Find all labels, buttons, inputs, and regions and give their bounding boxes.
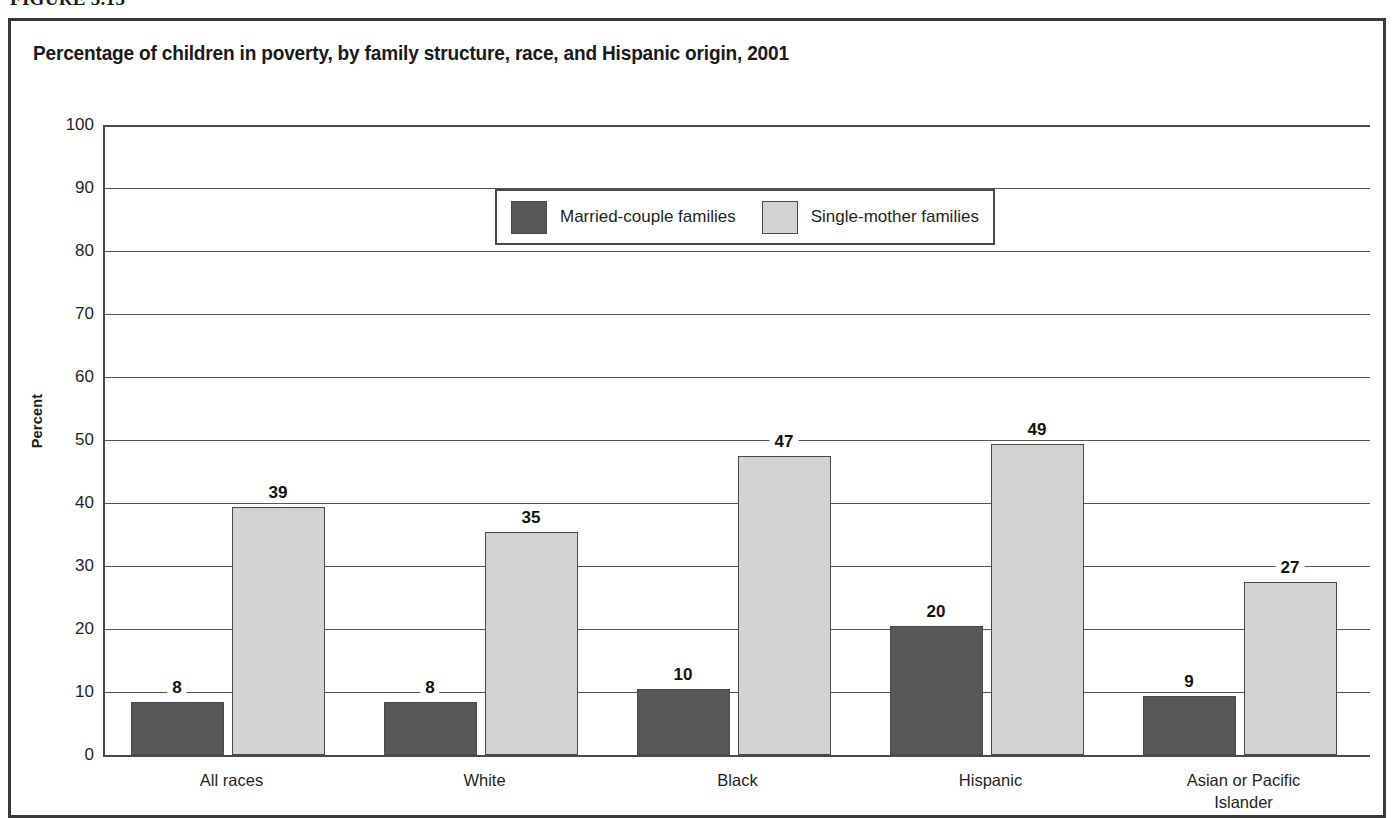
bar-single-white[interactable] [485, 532, 578, 755]
legend-label-married: Married-couple families [560, 207, 736, 227]
y-axis-tick-label: 70 [75, 304, 94, 324]
gridline [105, 377, 1370, 378]
chart-plot-wrapper: Percent 0102030405060708090100839All rac… [11, 21, 1383, 815]
y-axis-tick-label: 10 [75, 682, 94, 702]
y-axis-tick-label: 100 [66, 115, 94, 135]
bar-value-label: 49 [1023, 420, 1052, 440]
y-axis-tick-label: 30 [75, 556, 94, 576]
legend-swatch-married-icon [511, 201, 547, 234]
gridline [105, 125, 1370, 127]
y-axis-tick-label: 40 [75, 493, 94, 513]
bar-value-label: 8 [420, 678, 439, 698]
legend-swatch-single-icon [762, 201, 798, 234]
bar-married-black[interactable] [637, 689, 730, 755]
figure-number-label: FIGURE 3.13 [10, 0, 125, 10]
bar-value-label: 8 [167, 678, 186, 698]
bar-value-label: 9 [1179, 672, 1198, 692]
figure-frame: Percentage of children in poverty, by fa… [8, 18, 1386, 818]
bar-married-hispanic[interactable] [890, 626, 983, 755]
x-axis-category-label: All races [200, 769, 263, 791]
y-axis-tick-label: 20 [75, 619, 94, 639]
y-axis-tick-label: 60 [75, 367, 94, 387]
bar-value-label: 10 [669, 665, 698, 685]
x-axis-category-label: Asian or PacificIslander [1187, 769, 1301, 814]
bar-married-asian-or-pacific-islander[interactable] [1143, 696, 1236, 755]
bar-value-label: 20 [922, 602, 951, 622]
gridline [105, 251, 1370, 252]
bar-single-all-races[interactable] [232, 507, 325, 755]
y-axis-tick-label: 90 [75, 178, 94, 198]
y-axis-tick-label: 0 [85, 745, 94, 765]
bar-single-asian-or-pacific-islander[interactable] [1244, 582, 1337, 755]
bar-single-black[interactable] [738, 456, 831, 755]
legend-item-married-couple-families[interactable]: Married-couple families [511, 201, 736, 234]
bar-value-label: 47 [770, 432, 799, 452]
gridline [105, 440, 1370, 441]
y-axis-tick-label: 50 [75, 430, 94, 450]
gridline [105, 314, 1370, 315]
legend-label-single: Single-mother families [811, 207, 979, 227]
chart-legend: Married-couple families Single-mother fa… [495, 189, 995, 245]
x-axis-category-label: White [463, 769, 505, 791]
bar-married-all-races[interactable] [131, 702, 224, 755]
y-axis-title: Percent [29, 394, 45, 449]
y-axis-tick-label: 80 [75, 241, 94, 261]
bar-value-label: 39 [264, 483, 293, 503]
bar-married-white[interactable] [384, 702, 477, 755]
bar-value-label: 35 [517, 508, 546, 528]
x-axis-category-label: Hispanic [959, 769, 1022, 791]
x-axis-category-label: Black [717, 769, 757, 791]
bar-single-hispanic[interactable] [991, 444, 1084, 755]
legend-item-single-mother-families[interactable]: Single-mother families [762, 201, 979, 234]
bar-value-label: 27 [1276, 558, 1305, 578]
